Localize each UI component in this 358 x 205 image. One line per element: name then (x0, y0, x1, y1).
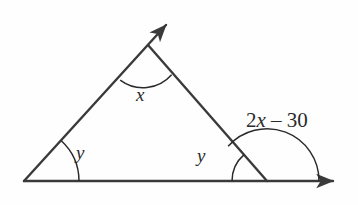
apex-angle-arc (120, 75, 171, 88)
exterior-angle-variable: x (257, 108, 266, 132)
geometry-diagram: x y y 2x – 30 (0, 0, 358, 205)
exterior-angle-constant: – 30 (266, 108, 308, 132)
diagram-canvas (0, 0, 358, 205)
exterior-angle-coefficient: 2 (246, 108, 257, 132)
left-side-ray (24, 25, 166, 181)
exterior-angle-label: 2x – 30 (246, 110, 308, 131)
left-base-angle-label: y (76, 143, 84, 162)
right-interior-angle-label: y (197, 146, 205, 165)
exterior-angle-arc (228, 129, 319, 181)
right-interior-angle-arc (232, 155, 244, 181)
apex-angle-label: x (136, 85, 144, 104)
